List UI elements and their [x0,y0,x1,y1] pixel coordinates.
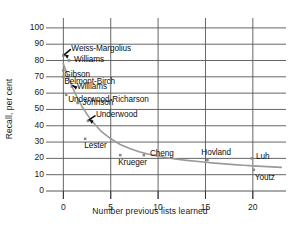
point-label: Weiss-Margolius [71,44,131,53]
plot-canvas [0,0,300,229]
point-label: Underwood [96,110,137,119]
y-tick-label: 80 [18,55,44,65]
y-tick-label: 0 [18,185,44,195]
x-tick-marks [63,191,252,199]
y-tick-label: 40 [18,120,44,130]
y-tick-label: 10 [18,169,44,179]
point-label: Youtz [255,173,275,182]
x-axis-title: Number previous lists learned [0,206,300,216]
point-label: Williams [77,82,107,91]
point-label: Lester [84,141,106,150]
point-label: Krueger [118,158,147,167]
data-point-marker [143,154,146,157]
data-point-marker [68,59,71,62]
point-label: Johnson [83,98,114,107]
data-point-marker [119,154,122,157]
y-tick-label: 60 [18,87,44,97]
label-pointer-arrow [64,50,70,55]
data-point-marker [252,168,255,171]
y-axis-title: Recall, per cent [4,72,14,146]
y-tick-label: 90 [18,38,44,48]
y-tick-label: 70 [18,71,44,81]
recall-vs-prior-lists-chart: 0102030405060708090100 05101520 Weiss-Ma… [0,0,300,229]
data-point-marker [84,138,87,141]
y-tick-label: 100 [18,22,44,32]
data-point-marker [206,159,209,162]
point-label: Hovland [201,148,231,157]
y-tick-label: 20 [18,152,44,162]
data-point-marker [65,93,68,96]
y-tick-label: 30 [18,136,44,146]
point-label: Williams [74,55,104,64]
point-label: Cheng [150,149,174,158]
y-tick-label: 50 [18,103,44,113]
data-point-marker [251,157,254,160]
point-label: Luh [256,152,270,161]
